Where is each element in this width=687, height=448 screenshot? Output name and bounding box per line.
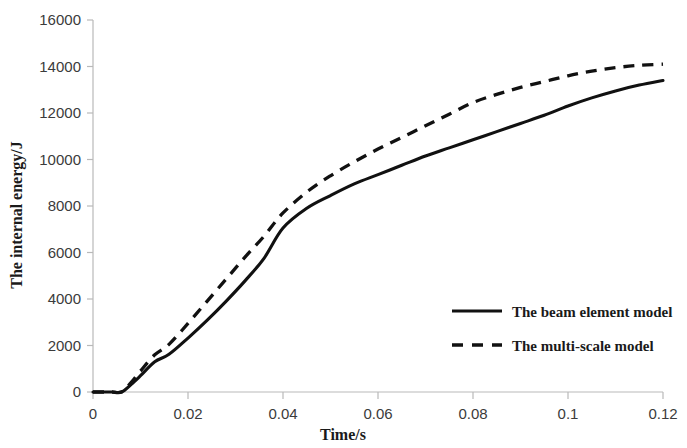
internal-energy-line-chart: 0200040006000800010000120001400016000 00…	[0, 0, 687, 448]
y-tick-label: 0	[73, 383, 81, 400]
y-axis-title: The internal energy/J	[8, 141, 26, 289]
legend-label-beam-element-model: The beam element model	[512, 304, 672, 320]
legend-label-multi-scale-model: The multi-scale model	[512, 338, 654, 354]
y-axis-tick-labels: 0200040006000800010000120001400016000	[39, 11, 81, 400]
y-tick-label: 10000	[39, 151, 81, 168]
y-tick-label: 2000	[48, 337, 81, 354]
x-tick-label: 0.08	[458, 405, 487, 422]
x-tick-label: 0.06	[363, 405, 392, 422]
y-tick-label: 14000	[39, 58, 81, 75]
y-axis-ticks	[87, 20, 93, 392]
x-axis-ticks	[93, 392, 663, 399]
x-tick-label: 0.04	[268, 405, 297, 422]
y-tick-label: 4000	[48, 290, 81, 307]
x-axis-title: Time/s	[320, 426, 366, 443]
axes-group: 0200040006000800010000120001400016000 00…	[39, 11, 677, 422]
y-tick-label: 16000	[39, 11, 81, 28]
y-tick-label: 8000	[48, 197, 81, 214]
legend: The beam element model The multi-scale m…	[452, 304, 672, 354]
chart-container: 0200040006000800010000120001400016000 00…	[0, 0, 687, 448]
x-tick-label: 0.1	[558, 405, 579, 422]
x-axis-tick-labels: 00.020.040.060.080.10.12	[89, 405, 678, 422]
y-tick-label: 6000	[48, 244, 81, 261]
x-tick-label: 0.02	[173, 405, 202, 422]
x-tick-label: 0.12	[648, 405, 677, 422]
x-tick-label: 0	[89, 405, 97, 422]
y-tick-label: 12000	[39, 104, 81, 121]
